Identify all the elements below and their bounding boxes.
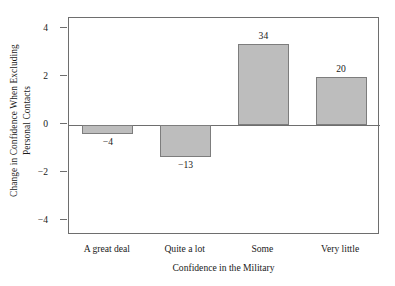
y-axis-tick-mark	[60, 75, 67, 76]
bar	[316, 77, 367, 125]
bar-value-label: 20	[296, 63, 387, 75]
y-axis-tick-mark	[60, 171, 67, 172]
y-axis-tick-mark	[60, 219, 67, 220]
bar-value-label: −13	[140, 159, 231, 171]
y-axis-tick-mark	[60, 123, 67, 124]
bar-chart-figure: Change in Confidence When Excluding Pers…	[0, 0, 395, 286]
y-axis-title-line-1: Change in Confidence When Excluding	[9, 44, 19, 197]
x-axis-title: Confidence in the Military	[68, 261, 379, 274]
bar	[238, 44, 289, 125]
y-axis-tick-label: −2	[18, 165, 48, 179]
y-axis-tick-label: −4	[18, 213, 48, 227]
x-axis-tick-label: Very little	[286, 242, 394, 255]
y-axis-tick-label: 4	[18, 21, 48, 35]
y-axis-tick-mark	[60, 27, 67, 28]
y-axis-tick-label: 2	[18, 69, 48, 83]
bar	[82, 125, 133, 134]
bar	[160, 125, 211, 157]
bar-value-label: −4	[62, 136, 153, 148]
y-axis-tick-label: 0	[18, 117, 48, 131]
bar-value-label: 34	[218, 30, 309, 42]
plot-area: −4−133420	[68, 17, 379, 234]
